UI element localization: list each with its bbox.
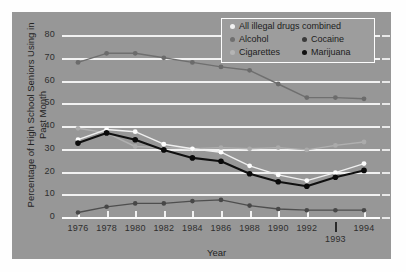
series-point (361, 168, 367, 174)
series-point (162, 201, 167, 206)
series-point (333, 170, 338, 175)
legend-marker-icon (230, 50, 235, 55)
series-point (304, 178, 309, 183)
series-point (104, 130, 110, 136)
chart-legend: All illegal drugs combinedAlcoholCocaine… (221, 18, 375, 63)
series-point (247, 68, 252, 73)
series-point (276, 145, 281, 150)
series-point (161, 147, 167, 153)
series-point (133, 144, 138, 149)
legend-label: Cocaine (311, 34, 344, 44)
series-point (333, 143, 338, 148)
legend-marker-icon (230, 24, 235, 29)
legend-item-cocaine[interactable]: Cocaine (302, 34, 344, 44)
series-point (76, 210, 81, 215)
series-point (247, 146, 252, 151)
series-point (275, 179, 281, 185)
series-point (333, 208, 338, 213)
legend-row: CigarettesMarijuana (226, 47, 371, 60)
series-point (190, 146, 195, 151)
series-point (362, 96, 367, 101)
series-point (276, 82, 281, 87)
series-point (247, 203, 252, 208)
series-point (362, 140, 367, 145)
legend-marker-icon (302, 50, 307, 55)
series-point (190, 60, 195, 65)
series-point (276, 207, 281, 212)
series-point (276, 173, 281, 178)
legend-label: Marijuana (311, 47, 351, 57)
series-point (104, 51, 109, 56)
legend-row: AlcoholCocaine (226, 34, 371, 47)
series-point (133, 51, 138, 56)
series-point (76, 60, 81, 65)
series-point (333, 95, 338, 100)
legend-item-alcohol[interactable]: Alcohol (230, 34, 269, 44)
legend-label: All illegal drugs combined (239, 21, 341, 31)
legend-item-cigarettes[interactable]: Cigarettes (230, 47, 280, 57)
series-point (247, 171, 253, 177)
series-point (219, 145, 224, 150)
series-point (304, 148, 309, 153)
series-point (304, 95, 309, 100)
legend-label: Alcohol (239, 34, 269, 44)
legend-marker-icon (230, 37, 235, 42)
series-point (362, 161, 367, 166)
series-point (219, 150, 224, 155)
chart-figure: Percentage of High School Seniors Using … (0, 0, 406, 272)
legend-label: Cigarettes (239, 47, 280, 57)
series-point (333, 174, 339, 180)
series-point (219, 198, 224, 203)
series-point (161, 142, 166, 147)
legend-item-marijuana[interactable]: Marijuana (302, 47, 351, 57)
series-point (75, 140, 81, 146)
series-point (132, 137, 138, 143)
series-point (219, 65, 224, 70)
series-point (104, 205, 109, 210)
series-point (190, 199, 195, 204)
series-point (247, 163, 252, 168)
series-point (218, 159, 224, 165)
series-point (305, 208, 310, 213)
series-point (133, 129, 138, 134)
series-point (304, 184, 310, 190)
legend-marker-icon (302, 37, 307, 42)
legend-item-all-illegal-drugs-combined[interactable]: All illegal drugs combined (230, 21, 341, 31)
series-point (362, 208, 367, 213)
series-point (190, 155, 196, 161)
series-point (161, 55, 166, 60)
legend-row: All illegal drugs combined (226, 21, 371, 34)
series-point (133, 201, 138, 206)
series-point (76, 126, 81, 131)
x-axis-title: Year (207, 247, 226, 258)
